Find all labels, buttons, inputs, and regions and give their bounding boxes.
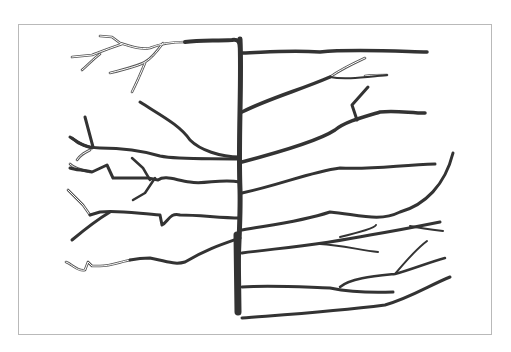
branch-solid [242, 77, 330, 112]
branch-solid [72, 138, 240, 159]
main-trunk-base [237, 235, 238, 312]
branch-solid [140, 102, 240, 157]
branch-solid [410, 226, 443, 231]
branch-solid [242, 111, 425, 162]
branch-solid [242, 164, 435, 193]
branch-solid [185, 40, 240, 48]
branch-solid [90, 211, 240, 225]
branch-solid [330, 75, 387, 78]
branch-solid [70, 137, 92, 148]
branch-solid [130, 238, 240, 263]
branch-solid [242, 286, 393, 292]
solid-branches [70, 40, 453, 318]
branching-diagram [0, 0, 511, 352]
branch-solid [242, 50, 427, 53]
branch-hollow [66, 260, 130, 270]
branch-solid [85, 117, 93, 147]
branch-solid [133, 178, 155, 200]
branch-solid [320, 244, 378, 252]
branch-solid [340, 258, 445, 287]
